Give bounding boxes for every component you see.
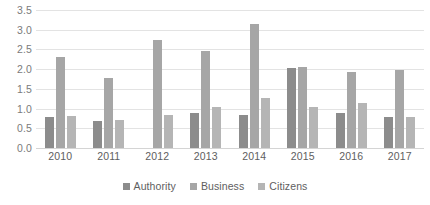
bar-group [230, 10, 279, 148]
bar-business-2014 [250, 24, 259, 148]
y-axis: 0.00.51.01.52.02.53.03.5 [0, 10, 32, 148]
bar-business-2015 [298, 67, 307, 148]
plot-area [36, 10, 424, 148]
bar-group [36, 10, 85, 148]
legend-label: Business [201, 180, 244, 192]
legend-item-business[interactable]: Business [190, 180, 244, 192]
bar-business-2016 [347, 72, 356, 148]
bar-business-2011 [104, 78, 113, 148]
bar-citizens-2013 [212, 107, 221, 148]
legend-swatch-icon [190, 183, 197, 190]
bar-citizens-2017 [406, 117, 415, 148]
y-axis-tick-label: 3.0 [17, 24, 32, 36]
bar-group [133, 10, 182, 148]
x-axis-tick-label: 2017 [376, 150, 425, 168]
bar-citizens-2014 [261, 98, 270, 148]
y-axis-tick-label: 1.0 [17, 103, 32, 115]
chart-legend: AuthorityBusinessCitizens [0, 180, 430, 192]
bar-citizens-2010 [67, 116, 76, 148]
x-axis-tick-label: 2016 [327, 150, 376, 168]
bar-business-2013 [201, 51, 210, 148]
y-axis-tick-label: 0.0 [17, 142, 32, 154]
x-axis-tick-label: 2015 [279, 150, 328, 168]
bar-citizens-2016 [358, 103, 367, 148]
bar-group [182, 10, 231, 148]
y-axis-tick-label: 2.5 [17, 43, 32, 55]
legend-label: Citizens [269, 180, 307, 192]
bar-group [85, 10, 134, 148]
y-axis-tick-label: 2.0 [17, 63, 32, 75]
x-axis-tick-label: 2013 [182, 150, 231, 168]
x-axis: 20102011201220132014201520162017 [36, 150, 424, 168]
legend-swatch-icon [258, 183, 265, 190]
legend-item-authority[interactable]: Authority [123, 180, 176, 192]
bar-groups [36, 10, 424, 148]
x-axis-tick-label: 2011 [85, 150, 134, 168]
bar-citizens-2012 [164, 115, 173, 149]
bar-citizens-2015 [309, 107, 318, 148]
bar-chart: 0.00.51.01.52.02.53.03.5 201020112012201… [0, 0, 430, 205]
legend-item-citizens[interactable]: Citizens [258, 180, 307, 192]
bar-authority-2016 [336, 113, 345, 148]
y-axis-tick-label: 0.5 [17, 122, 32, 134]
bar-authority-2013 [190, 113, 199, 148]
bar-authority-2010 [45, 117, 54, 148]
bar-group [279, 10, 328, 148]
bar-authority-2017 [384, 117, 393, 148]
bar-authority-2011 [93, 121, 102, 148]
axis-baseline [36, 148, 424, 149]
bar-group [376, 10, 425, 148]
bar-business-2017 [395, 70, 404, 148]
y-axis-tick-label: 1.5 [17, 83, 32, 95]
x-axis-tick-label: 2014 [230, 150, 279, 168]
bar-business-2010 [56, 57, 65, 148]
y-axis-tick-label: 3.5 [17, 4, 32, 16]
legend-label: Authority [134, 180, 176, 192]
bar-authority-2015 [287, 68, 296, 148]
bar-authority-2014 [239, 115, 248, 149]
bar-citizens-2011 [115, 120, 124, 148]
legend-swatch-icon [123, 183, 130, 190]
x-axis-tick-label: 2012 [133, 150, 182, 168]
bar-business-2012 [153, 40, 162, 148]
bar-group [327, 10, 376, 148]
x-axis-tick-label: 2010 [36, 150, 85, 168]
